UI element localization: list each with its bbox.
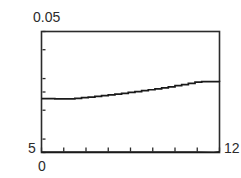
data-series-upper-curve [42, 82, 220, 99]
y-axis-ticks [43, 32, 46, 153]
x-axis-ticks [42, 148, 220, 152]
chart-figure: 0.05 5 0 12 [0, 0, 241, 178]
plot-area [0, 0, 241, 178]
